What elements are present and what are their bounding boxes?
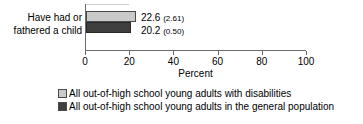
x-tick-40 bbox=[173, 51, 174, 55]
bar-group bbox=[86, 11, 136, 33]
data-label-bar2-value: 20.2 bbox=[141, 25, 160, 36]
legend-item-disabilities: All out-of-high school young adults with… bbox=[58, 87, 334, 100]
plot-area: 22.6 (2.61) 20.2 (0.50) 020406080100 bbox=[85, 4, 306, 54]
x-axis-title: Percent bbox=[85, 68, 306, 79]
x-tick-label-0: 0 bbox=[82, 56, 88, 67]
data-label-bar1-value: 22.6 bbox=[141, 12, 160, 23]
bar-series-general-population bbox=[86, 22, 131, 33]
plot-top-frame bbox=[85, 4, 129, 5]
category-label: Have had or fathered a child bbox=[0, 11, 82, 37]
data-label-bar2: 20.2 (0.50) bbox=[141, 25, 184, 36]
legend-label-general-population: All out-of-high school young adults in t… bbox=[69, 101, 334, 112]
legend-label-disabilities: All out-of-high school young adults with… bbox=[69, 88, 291, 99]
x-tick-label-80: 80 bbox=[256, 56, 267, 67]
bar-chart: Have had or fathered a child 22.6 (2.61)… bbox=[0, 0, 363, 124]
legend-swatch-general-population bbox=[58, 102, 67, 111]
x-tick-60 bbox=[218, 51, 219, 55]
x-tick-100 bbox=[306, 51, 307, 55]
legend-item-general-population: All out-of-high school young adults in t… bbox=[58, 100, 334, 113]
x-tick-0 bbox=[85, 51, 86, 55]
data-label-bar1-se: (2.61) bbox=[163, 14, 184, 23]
x-axis-line bbox=[85, 50, 306, 51]
x-tick-80 bbox=[262, 51, 263, 55]
x-tick-label-100: 100 bbox=[298, 56, 315, 67]
x-tick-20 bbox=[129, 51, 130, 55]
bar-series-disabilities bbox=[86, 11, 136, 22]
x-tick-label-20: 20 bbox=[124, 56, 135, 67]
data-label-bar1: 22.6 (2.61) bbox=[141, 12, 184, 23]
legend-swatch-disabilities bbox=[58, 89, 67, 98]
x-tick-label-60: 60 bbox=[212, 56, 223, 67]
legend: All out-of-high school young adults with… bbox=[58, 87, 334, 113]
data-label-bar2-se: (0.50) bbox=[163, 27, 184, 36]
x-tick-label-40: 40 bbox=[168, 56, 179, 67]
